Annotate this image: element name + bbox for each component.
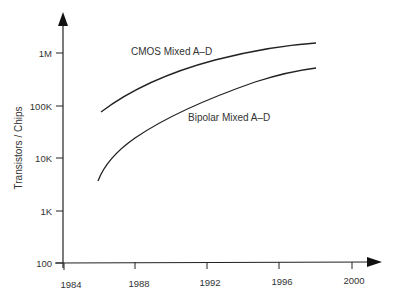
series-bipolar-line xyxy=(98,68,316,181)
x-tick-label: 1984 xyxy=(60,279,81,290)
x-tick-label: 1996 xyxy=(271,276,292,287)
x-tick-labels: 1984 1988 1992 1996 2000 xyxy=(60,275,364,290)
x-tick-label: 2000 xyxy=(343,275,364,286)
x-axis xyxy=(55,262,372,263)
y-tick-label: 1M xyxy=(39,48,52,59)
y-ticks xyxy=(56,53,63,263)
series-label-bipolar: Bipolar Mixed A–D xyxy=(188,112,270,123)
x-tick-label: 1988 xyxy=(128,278,149,289)
y-tick-label: 1K xyxy=(40,206,52,217)
y-tick-label: 100K xyxy=(30,101,53,112)
x-tick-label: 1992 xyxy=(199,277,220,288)
y-axis-arrow-icon xyxy=(58,12,68,26)
y-tick-labels: 100 1K 10K 100K 1M xyxy=(30,48,53,269)
x-axis-arrow-icon xyxy=(367,257,382,267)
y-tick-label: 100 xyxy=(36,258,52,269)
series-label-cmos: CMOS Mixed A–D xyxy=(131,46,212,57)
y-axis-title: Transistors / Chips xyxy=(13,107,24,190)
y-tick-label: 10K xyxy=(35,153,53,164)
chart: 100 1K 10K 100K 1M 1984 1988 1992 1996 2… xyxy=(0,0,393,302)
